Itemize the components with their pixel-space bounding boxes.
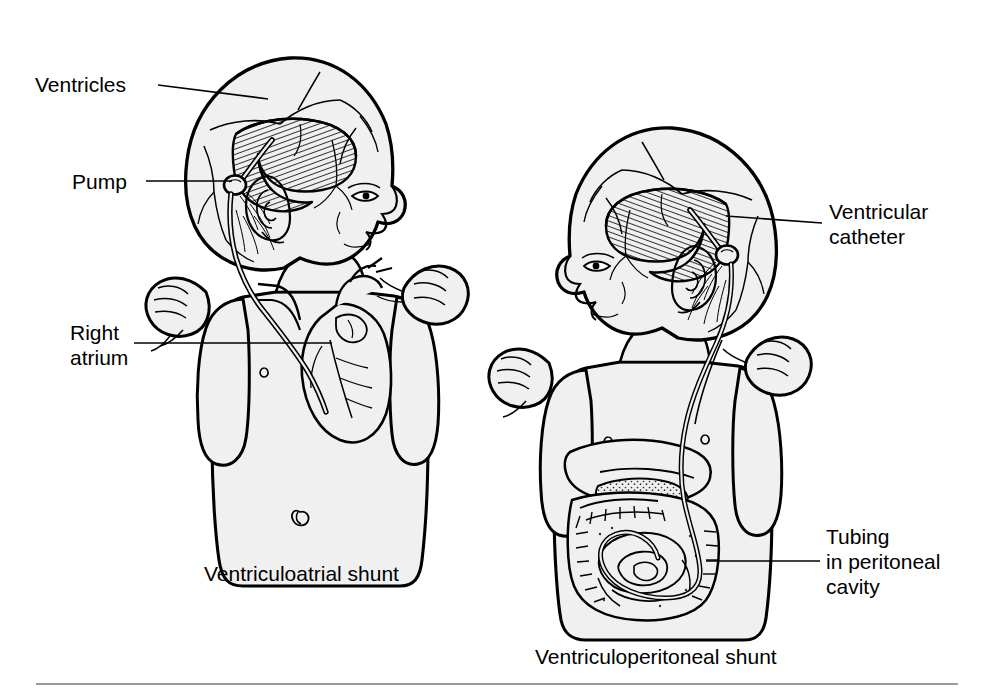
label-ventricles: Ventricles [35,72,126,97]
figure-root: Ventricles Pump Right atrium Ventricular… [0,0,982,700]
label-ventricular-catheter: Ventricular catheter [829,199,928,249]
label-pump: Pump [72,169,127,194]
label-right-atrium: Right atrium [70,320,128,370]
label-tubing-in-peritoneal-cavity: Tubing in peritoneal cavity [826,524,940,599]
pump-reservoir [224,176,246,195]
caption-ventriculoatrial-shunt: Ventriculoatrial shunt [204,561,399,586]
caption-ventriculoperitoneal-shunt: Ventriculoperitoneal shunt [535,644,777,669]
pump-reservoir-right [716,246,738,265]
